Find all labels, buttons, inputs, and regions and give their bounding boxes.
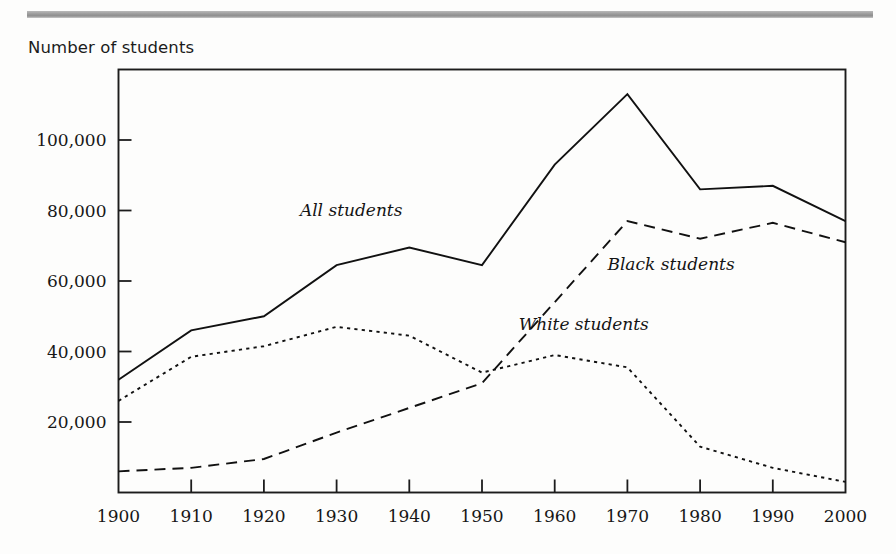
y-tick-label: 100,000 [36,130,106,150]
x-tick-label: 1960 [533,506,576,526]
x-tick-label: 1950 [460,506,503,526]
plot-frame [119,70,846,493]
y-tick-label: 20,000 [47,412,106,432]
x-tick-label: 1990 [751,506,794,526]
line-chart: 20,00040,00060,00080,000100,000 19001910… [0,0,896,554]
chart-page: Number of students 20,00040,00060,00080,… [0,0,896,554]
series-line-all-students [119,94,846,380]
x-axis-tick-labels: 1900191019201930194019501960197019801990… [97,506,867,526]
chart-plot-area: 20,00040,00060,00080,000100,000 19001910… [0,0,896,554]
data-series [119,94,846,482]
series-annotations: All studentsBlack studentsWhite students [298,200,735,335]
x-tick-label: 1900 [97,506,140,526]
x-tick-label: 1970 [606,506,649,526]
x-tick-label: 1930 [315,506,358,526]
x-tick-label: 2000 [824,506,867,526]
y-axis-tick-labels: 20,00040,00060,00080,000100,000 [36,130,106,432]
y-tick-label: 80,000 [47,201,106,221]
series-line-black-students [119,221,846,471]
series-line-white-students [119,327,846,482]
x-axis-ticks [191,480,773,493]
series-label-white-students: White students [519,314,649,334]
series-label-black-students: Black students [606,254,735,274]
y-tick-label: 60,000 [47,271,106,291]
series-label-all-students: All students [298,200,403,220]
x-tick-label: 1980 [678,506,721,526]
y-tick-label: 40,000 [47,342,106,362]
x-tick-label: 1940 [388,506,431,526]
x-tick-label: 1920 [242,506,285,526]
x-tick-label: 1910 [170,506,213,526]
y-axis-ticks [119,140,132,422]
